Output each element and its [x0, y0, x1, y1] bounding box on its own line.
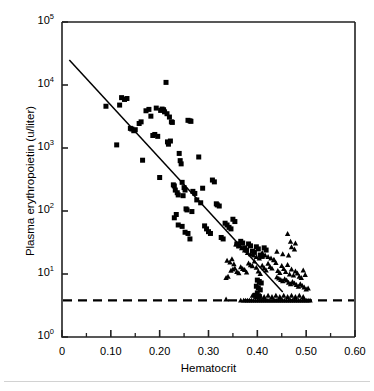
data-point-square [167, 115, 172, 120]
data-point-square [139, 119, 144, 124]
data-point-square [248, 243, 253, 248]
data-point-square [133, 127, 138, 132]
data-point-square [154, 106, 159, 111]
data-point-triangle [281, 293, 286, 298]
data-point-square [192, 191, 197, 196]
data-point-triangle [286, 253, 291, 258]
data-point-square [172, 215, 177, 220]
data-point-square [183, 188, 188, 193]
footer-divider [4, 381, 370, 382]
data-point-square [198, 200, 203, 205]
data-point-triangle [261, 294, 266, 299]
data-point-triangle [289, 267, 294, 272]
data-point-triangle [302, 272, 307, 277]
data-point-square [240, 241, 245, 246]
data-point-square [221, 236, 226, 241]
data-point-square [170, 120, 175, 125]
data-point-triangle [293, 294, 298, 299]
data-point-square [164, 80, 169, 85]
axis-frame [62, 22, 355, 337]
data-point-triangle [274, 249, 279, 254]
data-point-triangle [297, 293, 302, 298]
data-point-triangle [277, 294, 282, 299]
data-point-square [146, 107, 151, 112]
data-point-square [187, 236, 192, 241]
data-point-square [168, 139, 173, 144]
data-point-square [228, 226, 233, 231]
data-point-square [180, 180, 185, 185]
data-point-square [117, 103, 122, 108]
data-point-triangle [289, 293, 294, 298]
data-point-square [103, 104, 108, 109]
plot-area [0, 0, 374, 391]
data-point-triangle [288, 239, 293, 244]
data-point-square [256, 246, 261, 251]
chart-figure: Plasma erythropoietin (u/liter) Hematocr… [0, 0, 374, 391]
series-anemic-patients [103, 80, 268, 299]
data-point-square [200, 186, 205, 191]
data-point-square [232, 219, 237, 224]
data-point-triangle [280, 251, 285, 256]
data-point-square [177, 151, 182, 156]
data-point-square [188, 119, 193, 124]
data-point-triangle [285, 294, 290, 299]
data-point-square [185, 231, 190, 236]
data-point-square [124, 96, 129, 101]
data-point-square [217, 204, 222, 209]
data-point-square [140, 158, 145, 163]
data-point-triangle [223, 297, 228, 302]
data-point-square [148, 114, 153, 119]
data-point-triangle [285, 262, 290, 267]
data-point-triangle [301, 294, 306, 299]
data-point-square [208, 231, 213, 236]
tick-marks [62, 22, 355, 337]
data-point-triangle [285, 231, 290, 236]
data-point-square [176, 192, 181, 197]
data-point-triangle [229, 256, 234, 261]
data-point-square [181, 193, 186, 198]
data-point-triangle [265, 293, 270, 298]
data-point-square [155, 134, 160, 139]
data-point-triangle [287, 272, 292, 277]
data-point-triangle [273, 293, 278, 298]
data-point-triangle [269, 294, 274, 299]
data-point-square [259, 280, 264, 285]
data-point-square [189, 209, 194, 214]
regression-line [69, 60, 282, 292]
data-point-square [264, 248, 269, 253]
data-point-square [180, 224, 185, 229]
data-point-square [179, 161, 184, 166]
data-point-triangle [293, 241, 298, 246]
data-point-square [185, 207, 190, 212]
data-point-square [114, 142, 119, 147]
data-point-triangle [301, 267, 306, 272]
data-point-square [212, 179, 217, 184]
data-point-square [157, 175, 162, 180]
data-point-square [196, 154, 201, 159]
